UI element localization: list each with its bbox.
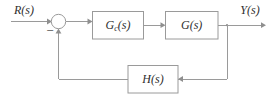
feedback-block-label: H(s) [141,72,163,86]
plant-label-main: G [181,18,190,32]
feedback-label-tail: (s) [151,72,164,86]
feedback-block-input-arrow-icon [178,76,183,82]
plant-block-label: G(s) [181,18,202,32]
plant-label-tail: (s) [190,18,203,32]
output-arrow-icon [261,22,266,28]
input-signal-label: R(s) [13,3,34,17]
negative-sign-label: − [46,23,53,38]
controller-block-label: Gc(s) [106,18,131,33]
controller-label-main: G [106,18,115,32]
controller-label-tail: (s) [118,18,131,32]
plant-input-arrow-icon [161,22,166,28]
block-diagram-canvas: R(s) Y(s) − Gc(s) G(s) H(s) [0,0,271,98]
output-signal-label: Y(s) [240,3,259,17]
controller-input-arrow-icon [88,19,93,25]
block-diagram-svg: R(s) Y(s) − Gc(s) G(s) H(s) [0,0,271,98]
summing-junction-feedback-arrow-icon [56,29,62,34]
